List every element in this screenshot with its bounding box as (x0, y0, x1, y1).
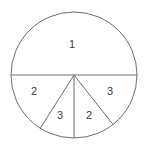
pie-figure-container: 1 2 3 2 3 (0, 0, 144, 150)
pie-chart-svg: 1 2 3 2 3 (0, 0, 144, 150)
sector-label-top-half: 1 (69, 38, 75, 50)
sector-label-lower-right-outer: 3 (107, 85, 113, 97)
sector-label-lower-left-inner: 3 (57, 109, 63, 121)
sector-label-lower-left-outer: 2 (31, 85, 37, 97)
sector-label-lower-right-inner: 2 (86, 109, 92, 121)
